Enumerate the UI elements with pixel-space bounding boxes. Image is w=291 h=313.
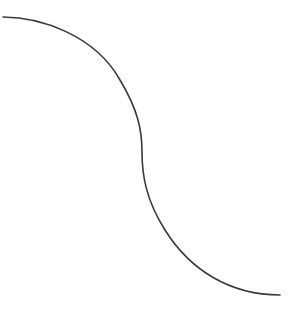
diagram-canvas [0,0,291,313]
s-curve-line [3,17,280,295]
